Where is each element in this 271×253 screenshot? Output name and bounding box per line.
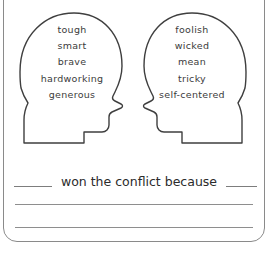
head-right-word: mean [138, 54, 246, 70]
prompt-blank-before[interactable] [14, 176, 52, 187]
head-left-word: generous [18, 87, 126, 103]
head-right-word: self-centered [138, 87, 246, 103]
head-left-word: tough [18, 22, 126, 38]
head-left-word-list: tough smart brave hardworking generous [18, 22, 126, 103]
prompt-text: won the conflict because [61, 174, 217, 189]
worksheet-page: tough smart brave hardworking generous f… [0, 0, 271, 253]
head-right-word: tricky [138, 71, 246, 87]
head-right-word: foolish [138, 22, 246, 38]
head-left-word: hardworking [18, 71, 126, 87]
head-right-word: wicked [138, 38, 246, 54]
answer-line-2[interactable] [15, 227, 253, 228]
sentence-prompt-row: won the conflict because [0, 172, 271, 190]
heads-container: tough smart brave hardworking generous f… [0, 0, 271, 160]
prompt-blank-after[interactable] [226, 176, 257, 187]
head-right-word-list: foolish wicked mean tricky self-centered [138, 22, 246, 103]
head-left-word: brave [18, 54, 126, 70]
head-left-word: smart [18, 38, 126, 54]
answer-line-1[interactable] [15, 204, 253, 205]
